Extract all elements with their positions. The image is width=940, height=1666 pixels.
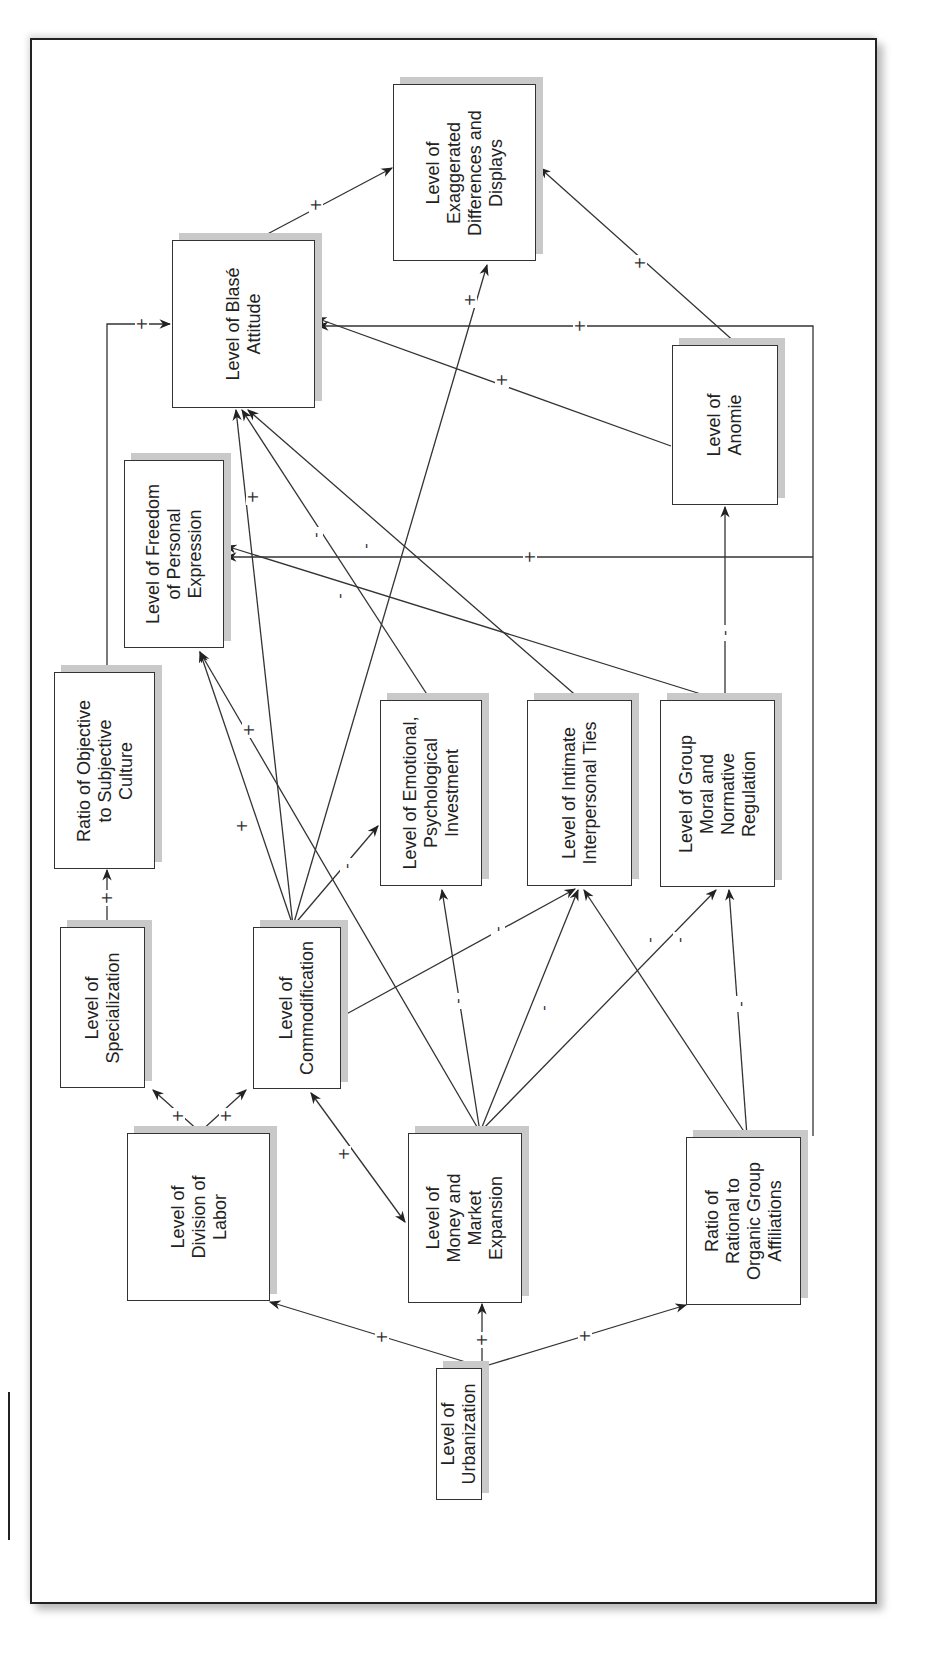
node-label: Level of Urbanization — [438, 1383, 480, 1484]
node-freedom-expression: Level of Freedom of Personal Expression — [124, 460, 224, 648]
node-label: Level of Exaggerated Differences and Dis… — [423, 110, 507, 236]
positive-sign: + — [461, 294, 479, 307]
negative-sign: - — [331, 593, 349, 598]
node-urbanization: Level of Urbanization — [436, 1368, 482, 1500]
edge-group-moral-to-freedom-expression — [226, 546, 717, 699]
node-label: Level of Group Moral and Normative Regul… — [676, 734, 760, 852]
node-exaggerated-differences: Level of Exaggerated Differences and Dis… — [393, 84, 536, 261]
node-label: Level of Specialization — [82, 952, 124, 1063]
positive-sign: + — [521, 551, 539, 564]
positive-sign: + — [169, 1110, 187, 1123]
negative-sign: - — [338, 863, 356, 868]
edge-commodification-to-money-market — [311, 1093, 405, 1222]
node-anomie: Level of Anomie — [672, 345, 778, 505]
node-label: Level of Money and Market Expansion — [423, 1173, 507, 1262]
edge-blase-attitude-to-exaggerated-differences — [258, 168, 392, 239]
node-label: Level of Commodification — [276, 941, 318, 1075]
positive-sign: + — [576, 1330, 594, 1343]
node-money-market: Level of Money and Market Expansion — [408, 1133, 522, 1303]
positive-sign: + — [493, 374, 511, 387]
node-blase-attitude: Level of Blasé Attitude — [172, 240, 315, 408]
positive-sign: + — [473, 1334, 491, 1347]
edge-money-market-to-group-moral — [480, 890, 716, 1132]
node-label: Ratio of Objective to Subjective Culture — [73, 699, 136, 841]
node-intimate-ties: Level of Intimate Interpersonal Ties — [527, 700, 632, 886]
positive-sign: + — [307, 199, 325, 212]
negative-sign: - — [535, 1005, 553, 1010]
edge-commodification-to-freedom-expression — [200, 652, 293, 926]
edge-commodification-to-emotional-investment — [293, 826, 378, 926]
positive-sign: + — [133, 318, 151, 331]
positive-sign: + — [571, 320, 589, 333]
edge-rational-organic-to-group-moral — [729, 890, 747, 1136]
negative-sign: - — [307, 532, 325, 537]
negative-sign: - — [732, 1001, 750, 1006]
diagram-canvas: ++++++++++++------+++-----++ Level of Ur… — [0, 0, 940, 1666]
negative-sign: - — [671, 937, 689, 942]
positive-sign: + — [244, 491, 262, 504]
positive-sign: + — [335, 1148, 353, 1161]
negative-sign: - — [641, 937, 659, 942]
edge-rational-organic-to-intimate-ties — [584, 890, 747, 1136]
negative-sign: - — [357, 543, 375, 548]
node-specialization: Level of Specialization — [60, 927, 145, 1088]
positive-sign: + — [98, 892, 116, 905]
node-label: Level of Emotional, Psychological Invest… — [400, 716, 463, 869]
positive-sign: + — [240, 724, 258, 737]
node-label: Level of Anomie — [704, 393, 746, 456]
node-division-of-labor: Level of Division of Labor — [127, 1133, 270, 1301]
positive-sign: + — [233, 820, 251, 833]
node-label: Level of Intimate Interpersonal Ties — [559, 721, 601, 864]
positive-sign: + — [217, 1110, 235, 1123]
node-label: Level of Division of Labor — [167, 1175, 230, 1258]
node-label: Level of Blasé Attitude — [223, 267, 265, 380]
node-objective-subjective: Ratio of Objective to Subjective Culture — [54, 672, 155, 869]
edge-money-market-to-emotional-investment — [442, 890, 480, 1132]
node-label: Level of Freedom of Personal Expression — [143, 484, 206, 624]
node-emotional-investment: Level of Emotional, Psychological Invest… — [380, 700, 482, 886]
negative-sign: - — [716, 630, 734, 635]
positive-sign: + — [373, 1331, 391, 1344]
node-commodification: Level of Commodification — [253, 927, 341, 1089]
node-rational-organic: Ratio of Rational to Organic Group Affil… — [686, 1137, 801, 1305]
negative-sign: - — [489, 926, 507, 931]
negative-sign: - — [449, 998, 467, 1003]
node-label: Ratio of Rational to Organic Group Affil… — [702, 1162, 786, 1280]
node-group-moral: Level of Group Moral and Normative Regul… — [660, 700, 775, 887]
edge-commodification-to-blase-attitude — [236, 410, 293, 926]
positive-sign: + — [631, 257, 649, 270]
